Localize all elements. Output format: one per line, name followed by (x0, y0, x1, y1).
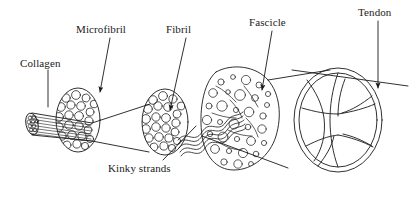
microfibril-disc-structure (55, 88, 100, 152)
collagen-bundle-structure (24, 112, 92, 141)
label-fascicle: Fascicle (249, 17, 286, 28)
label-kinky-strands: Kinky strands (108, 163, 171, 174)
tendon-cross-section-structure (294, 68, 382, 172)
kinky-strands-leader (163, 126, 196, 160)
microfibril-leader (100, 38, 110, 92)
fibril-disc-structure (142, 89, 188, 155)
label-tendon: Tendon (358, 7, 391, 18)
label-microfibril: Microfibril (76, 24, 126, 35)
label-fibril: Fibril (166, 24, 191, 35)
fascicle-blob-structure (201, 67, 279, 170)
diagram-canvas: Collagen Microfibril Fibril Fascicle Ten… (0, 0, 416, 205)
fascicle-leader (262, 31, 272, 90)
fibril-leader (170, 38, 186, 110)
label-collagen: Collagen (20, 58, 61, 69)
tendon-hierarchy-illustration (0, 0, 416, 205)
